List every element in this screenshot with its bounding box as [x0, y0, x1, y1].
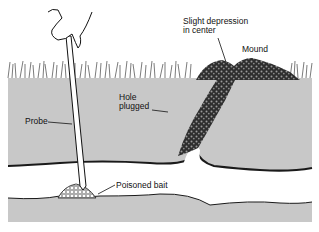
label-depression-line2: in center — [183, 26, 248, 35]
depression-pointer — [218, 38, 226, 62]
label-probe: Probe — [25, 117, 48, 126]
bait-pointer — [98, 185, 115, 194]
soil-lower — [8, 194, 312, 222]
label-poisoned-bait: Poisoned bait — [116, 181, 168, 190]
soil-upper — [8, 78, 312, 171]
label-mound: Mound — [242, 45, 268, 54]
mound — [196, 58, 300, 80]
label-depression: Slight depression in center — [183, 17, 248, 35]
poisoned-bait — [58, 184, 96, 198]
label-hole-line2: plugged — [119, 102, 149, 111]
label-hole-plugged: Hole plugged — [119, 93, 149, 111]
